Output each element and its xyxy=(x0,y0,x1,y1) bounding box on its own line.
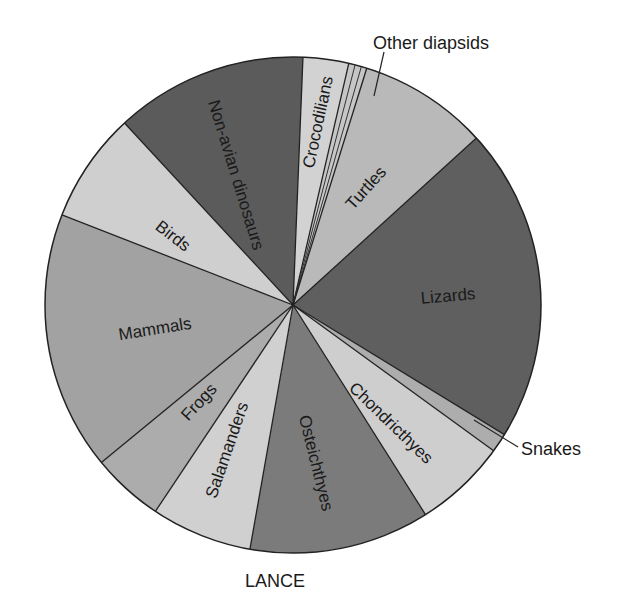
outer-label-snakes: Snakes xyxy=(521,439,581,459)
pie-chart: CrocodiliansTurtlesLizardsChondricthyesO… xyxy=(0,0,625,596)
outer-label-other-diapsids: Other diapsids xyxy=(373,33,489,53)
chart-caption: LANCE xyxy=(245,571,305,591)
